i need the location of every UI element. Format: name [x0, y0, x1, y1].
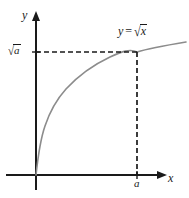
y-axis — [32, 11, 40, 190]
radical-sign-icon: √ — [8, 44, 14, 57]
curve-equation-label: y=√x — [118, 24, 147, 37]
plot-canvas — [0, 0, 189, 198]
x-axis — [6, 171, 167, 179]
x-axis-tick-label-a: a — [134, 178, 140, 189]
radical-sign-icon: √ — [134, 24, 141, 38]
y-axis-label: y — [22, 9, 27, 21]
radicand-a: a — [13, 44, 21, 56]
sqrt-curve — [36, 42, 186, 175]
square-root-function-graph: y x a √a y=√x — [0, 0, 189, 198]
equation-operator: = — [123, 24, 134, 38]
x-axis-label: x — [168, 172, 173, 184]
y-axis-tick-label-sqrt-a: √a — [8, 44, 21, 56]
